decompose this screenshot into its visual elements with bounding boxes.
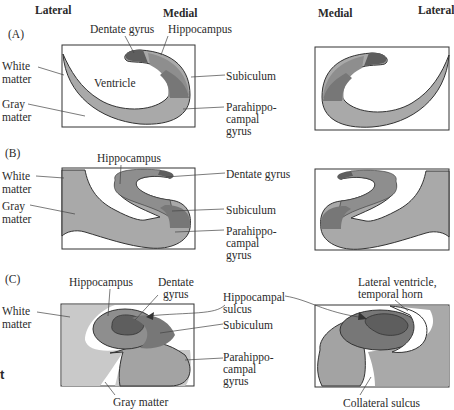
label-c-white-matter-2: matter <box>2 318 31 330</box>
label-c-lateral-ventricle-2: temporal horn <box>358 288 423 300</box>
cropped-text-fragment: t <box>0 367 4 382</box>
panel-a-label: (A) <box>8 28 24 40</box>
label-a-parahippo-3: gyrus <box>226 125 252 137</box>
label-a-gray-matter-2: matter <box>2 111 31 123</box>
label-b-parahippo-1: Parahippo- <box>226 225 276 237</box>
label-a-gray-matter-1: Gray <box>2 98 25 110</box>
label-c-hippocampus: Hippocampus <box>69 276 133 288</box>
panel-b-label: (B) <box>5 147 20 159</box>
label-c-dentate-2: gyrus <box>163 288 189 300</box>
label-c-gray-matter: Gray matter <box>113 396 168 408</box>
label-b-parahippo-3: gyrus <box>226 249 252 261</box>
label-c-lateral-ventricle-1: Lateral ventricle, <box>358 276 437 288</box>
label-a-subiculum: Subiculum <box>226 70 276 82</box>
label-b-gray-matter-2: matter <box>2 213 31 225</box>
label-a-ventricle: Ventricle <box>94 77 136 89</box>
label-c-white-matter-1: White <box>2 305 30 317</box>
panel-c-label: (C) <box>5 273 20 285</box>
label-b-dentate-gyrus: Dentate gyrus <box>226 168 290 180</box>
label-a-hippocampus: Hippocampus <box>168 23 232 35</box>
label-a-white-matter-1: White <box>2 60 30 72</box>
label-b-gray-matter-1: Gray <box>2 200 25 212</box>
label-b-white-matter-2: matter <box>2 183 31 195</box>
label-b-subiculum: Subiculum <box>226 204 276 216</box>
label-c-hippocampal-sulcus-2: sulcus <box>223 303 252 315</box>
label-b-white-matter-1: White <box>2 170 30 182</box>
label-b-parahippo-2: campal <box>226 237 259 249</box>
label-c-parahippo-2: campal <box>223 363 256 375</box>
label-c-dentate-1: Dentate <box>158 276 194 288</box>
label-c-hippocampal-sulcus-1: Hippocampal <box>223 291 285 303</box>
label-c-parahippo-3: gyrus <box>223 375 249 387</box>
label-a-white-matter-2: matter <box>2 73 31 85</box>
label-b-hippocampus: Hippocampus <box>97 152 161 164</box>
label-c-parahippo-1: Parahippo- <box>223 351 273 363</box>
label-a-dentate-gyrus: Dentate gyrus <box>90 23 154 35</box>
label-c-subiculum: Subiculum <box>223 319 273 331</box>
label-c-collateral-sulcus: Collateral sulcus <box>343 397 420 409</box>
label-a-parahippo-2: campal <box>226 113 259 125</box>
label-a-parahippo-1: Parahippo- <box>226 101 276 113</box>
